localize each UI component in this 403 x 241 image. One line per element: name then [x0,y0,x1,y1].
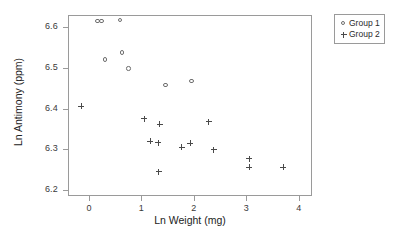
scatter-plot-figure: 6.26.36.46.56.601234 Ln Weight (mg) Ln A… [0,0,403,241]
circle-marker-icon [338,18,349,29]
x-axis-title: Ln Weight (mg) [0,214,380,226]
x-tick-label: 3 [226,203,266,213]
legend-label-group-1: Group 1 [349,18,380,29]
data-point-plus [155,140,161,146]
data-point-plus [246,164,252,170]
data-point-circle [189,79,193,83]
data-point-circle [103,57,107,61]
data-point-plus [141,116,147,122]
x-tick-mark [89,196,90,201]
y-tick-label: 6.2 [12,184,58,194]
y-tick-mark [63,149,68,150]
data-point-circle [126,66,130,70]
y-tick-mark [63,190,68,191]
data-point-plus [206,119,212,125]
legend: Group 1 Group 2 [334,14,385,44]
x-tick-label: 2 [174,203,214,213]
y-tick-mark [63,27,68,28]
data-point-plus [157,121,163,127]
data-point-plus [156,169,162,175]
data-point-plus [280,164,286,170]
x-tick-mark [141,196,142,201]
plot-area [68,15,312,196]
x-tick-label: 1 [121,203,161,213]
y-tick-label: 6.6 [12,21,58,31]
x-tick-label: 0 [69,203,109,213]
y-tick-mark [63,68,68,69]
legend-item-group-1: Group 1 [338,18,380,29]
y-tick-mark [63,109,68,110]
x-tick-mark [194,196,195,201]
y-axis-title: Ln Antimony (ppm) [12,32,24,172]
legend-label-group-2: Group 2 [349,29,380,40]
data-point-plus [211,147,217,153]
data-point-plus [187,140,193,146]
plus-marker-icon [338,29,349,40]
data-point-plus [78,103,84,109]
data-point-plus [179,144,185,150]
data-point-plus [246,156,252,162]
x-tick-mark [299,196,300,201]
data-point-plus [147,138,153,144]
x-tick-mark [246,196,247,201]
data-point-circle [99,19,103,23]
legend-item-group-2: Group 2 [338,29,380,40]
data-point-circle [120,50,124,54]
x-tick-label: 4 [279,203,319,213]
